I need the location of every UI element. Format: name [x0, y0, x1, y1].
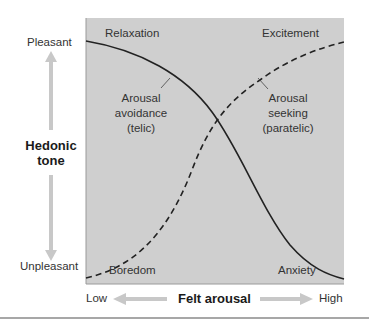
- paratelic-curve-label: Arousal seeking (paratelic): [256, 91, 320, 136]
- arrow-right-icon: [260, 293, 313, 305]
- x-label-high: High: [319, 292, 343, 304]
- paratelic-label-line1: Arousal: [256, 91, 320, 106]
- label-excitement: Excitement: [262, 27, 319, 39]
- label-relaxation: Relaxation: [105, 27, 159, 39]
- paratelic-label-line2: seeking: [256, 106, 320, 121]
- arrow-down-icon: [45, 175, 57, 261]
- telic-label-line1: Arousal: [112, 91, 170, 106]
- plot-area: [86, 18, 344, 284]
- telic-label-line2: avoidance: [112, 106, 170, 121]
- arrow-left-icon: [113, 293, 167, 305]
- x-axis-title: Felt arousal: [178, 291, 251, 306]
- paratelic-label-line3: (paratelic): [256, 121, 320, 136]
- y-label-pleasant: Pleasant: [27, 36, 72, 48]
- y-axis-title: Hedonic tone: [18, 138, 84, 168]
- telic-curve-label: Arousal avoidance (telic): [112, 91, 170, 136]
- telic-label-line3: (telic): [112, 121, 170, 136]
- arrow-up-icon: [45, 51, 57, 130]
- label-boredom: Boredom: [109, 264, 156, 276]
- y-title-line1: Hedonic: [18, 138, 84, 153]
- x-label-low: Low: [86, 292, 107, 304]
- y-title-line2: tone: [18, 153, 84, 168]
- y-label-unpleasant: Unpleasant: [20, 260, 78, 272]
- label-anxiety: Anxiety: [278, 264, 316, 276]
